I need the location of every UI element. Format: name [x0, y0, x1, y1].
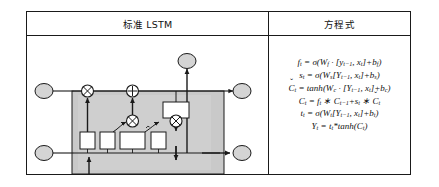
output-y-node	[178, 54, 196, 69]
input-multiply-operator	[127, 115, 139, 127]
equation-output-gate: tt = σ(Wt[Yt−1, xt]+bt)	[300, 109, 378, 119]
equation-forget-gate: ft = σ(Wf · [yt−1, xt]+bf)	[298, 58, 382, 68]
table-body-row: ft = σ(Wf · [yt−1, xt]+bf) st = σ(Ws[Yt−…	[27, 36, 410, 174]
figure-page: 标准 LSTM 方程式	[0, 0, 439, 187]
hidden-state-in-node	[35, 146, 53, 161]
forget-gate-box	[80, 132, 95, 149]
cell-state-out-node	[233, 84, 251, 99]
cell-equations: ft = σ(Wf · [yt−1, xt]+bf) st = σ(Ws[Yt−…	[269, 36, 410, 174]
forget-multiply-operator	[82, 85, 94, 97]
table-header-row: 标准 LSTM 方程式	[27, 12, 410, 36]
output-gate-box	[151, 132, 166, 149]
hidden-state-out-node	[233, 146, 251, 161]
column-header-equations: 方程式	[269, 12, 410, 35]
cell-state-in-node	[35, 84, 53, 99]
column-header-standard-lstm: 标准 LSTM	[27, 12, 269, 35]
lstm-comparison-table: 标准 LSTM 方程式	[26, 11, 411, 175]
candidate-gate-box	[120, 132, 145, 149]
input-gate-box	[100, 132, 115, 149]
output-multiply-operator	[170, 115, 182, 127]
equation-hidden-state: Yt = tt*tanh(Ct)	[312, 122, 368, 132]
equation-list: ft = σ(Wf · [yt−1, xt]+bf) st = σ(Ws[Yt−…	[269, 36, 410, 174]
equation-cell-state: Ct = ft ∗ Ct−1+st ∗ ˇCt	[299, 97, 381, 107]
cell-lstm-diagram	[27, 36, 269, 174]
equation-input-gate: st = σ(Ws[Yt−1, xt]+bs)	[299, 71, 379, 81]
standard-lstm-cell-diagram	[27, 36, 269, 174]
state-add-operator	[127, 85, 139, 97]
